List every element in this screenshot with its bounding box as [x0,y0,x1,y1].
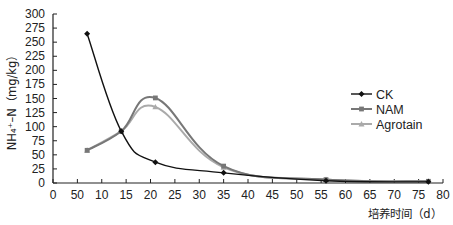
y-tick-label: 275 [25,21,45,35]
square-marker [85,148,90,153]
legend-item-agrotain: Agrotain [351,118,423,132]
x-tick-label: 55 [314,188,328,202]
y-tick-label: 200 [25,63,45,77]
legend-label: NAM [376,103,404,117]
y-tick-label: 0 [38,176,45,190]
legend-label: Agrotain [376,118,423,132]
x-tick-label: 20 [144,188,158,202]
legend-item-ck: CK [351,88,394,102]
y-tick-label: 300 [25,7,45,21]
y-tick-label: 125 [25,106,45,120]
y-axis-ticks: 0255075100125150175200225250275300 [25,7,57,190]
y-tick-label: 225 [25,49,45,63]
x-tick-label: 65 [363,188,377,202]
x-tick-label: 35 [217,188,231,202]
y-tick-label: 25 [32,162,46,176]
y-tick-label: 100 [25,120,45,134]
x-tick-label: 70 [388,188,402,202]
y-tick-label: 175 [25,77,45,91]
x-tick-label: 30 [193,188,207,202]
x-tick-label: 50 [290,188,304,202]
x-tick-label: 60 [339,188,353,202]
x-tick-label: 25 [168,188,182,202]
square-marker [221,164,226,169]
x-tick-label: 45 [266,188,280,202]
x-tick-label: 40 [241,188,255,202]
y-tick-label: 50 [32,148,46,162]
x-tick-label: 15 [119,188,133,202]
legend-item-nam: NAM [351,103,404,117]
y-tick-label: 75 [32,134,46,148]
diamond-marker [359,91,365,97]
line-chart: 0255075100125150175200225250275300 05010… [0,0,453,225]
x-axis-title: 培养时间（d） [368,207,441,221]
square-marker [153,96,158,101]
square-marker [359,107,364,112]
x-tick-label: 10 [95,188,109,202]
y-tick-label: 150 [25,92,45,106]
diamond-marker [221,170,227,176]
x-tick-label: 0 [50,188,57,202]
x-tick-label: 80 [436,188,450,202]
x-tick-label: 50 [71,188,85,202]
diamond-marker [84,31,90,37]
x-tick-label: 75 [412,188,426,202]
y-axis-title: NH₄⁺–N（mg/kg） [5,50,19,151]
legend-label: CK [376,88,394,102]
diamond-marker [152,159,158,165]
legend: CKNAMAgrotain [351,88,423,132]
y-tick-label: 250 [25,35,45,49]
